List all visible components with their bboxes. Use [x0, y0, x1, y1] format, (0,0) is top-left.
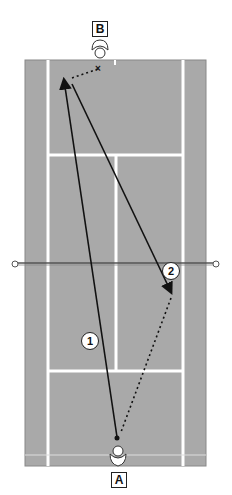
court-diagram: ×	[0, 0, 232, 495]
x-marker-icon: ×	[95, 63, 101, 74]
player-a-label: A	[111, 472, 127, 488]
player-b-icon	[92, 40, 108, 58]
shot-2-number: 2	[162, 262, 180, 280]
ball-icon	[115, 436, 120, 441]
net-post-left	[12, 261, 18, 267]
shot-1-number: 1	[81, 332, 99, 350]
player-b-label: B	[92, 21, 108, 37]
net-post-right	[213, 261, 219, 267]
